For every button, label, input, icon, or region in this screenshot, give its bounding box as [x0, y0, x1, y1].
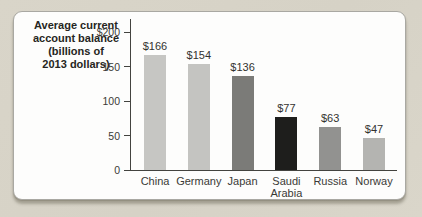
y-tick-mark [124, 66, 130, 67]
y-tick-label: 100 [86, 95, 120, 107]
y-tick-mark [124, 135, 130, 136]
y-axis-line [130, 19, 131, 171]
y-tick-mark [124, 101, 130, 102]
y-tick-label: 0 [86, 164, 120, 176]
chart-panel: Average current account balance (billion… [13, 11, 406, 200]
bar-russia [319, 127, 341, 170]
bar-value-label: $136 [221, 61, 265, 73]
y-tick-label: 150 [86, 61, 120, 73]
bar-value-label: $63 [308, 112, 352, 124]
bar-saudi [275, 117, 297, 170]
bar-value-label: $47 [352, 123, 396, 135]
page-background: Average current account balance (billion… [0, 0, 422, 217]
plot-area: $200150100500$166China$154Germany$136Jap… [14, 12, 405, 199]
y-tick-label: 50 [86, 130, 120, 142]
bar-china [144, 55, 166, 170]
bar-germany [188, 64, 210, 170]
bar-norway [363, 138, 385, 170]
y-tick-mark [124, 170, 130, 171]
bar-value-label: $77 [264, 102, 308, 114]
x-axis-line [130, 170, 397, 171]
x-axis-category-label: Norway [346, 175, 402, 187]
y-tick-mark [124, 32, 130, 33]
y-tick-label: $200 [86, 26, 120, 38]
bar-value-label: $166 [133, 40, 177, 52]
bar-value-label: $154 [177, 49, 221, 61]
bar-japan [232, 76, 254, 170]
